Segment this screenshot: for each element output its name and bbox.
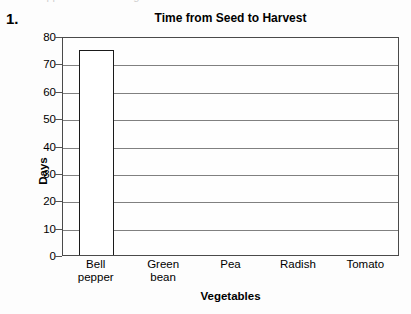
x-category-line1: Pea bbox=[220, 258, 240, 270]
y-tick-label: 60 bbox=[26, 87, 56, 97]
y-tick-mark bbox=[55, 147, 62, 148]
x-category-label: Tomato bbox=[332, 258, 399, 288]
x-category-line1: Bell bbox=[86, 258, 105, 270]
y-tick-label: 30 bbox=[26, 169, 56, 179]
y-tick-label: 20 bbox=[26, 196, 56, 206]
y-tick-label: 10 bbox=[26, 224, 56, 234]
plot-area bbox=[62, 37, 399, 256]
x-category-label: Greenbean bbox=[129, 258, 196, 288]
y-tick-mark bbox=[55, 229, 62, 230]
x-axis-title: Vegetables bbox=[62, 290, 399, 302]
x-category-line2: pepper bbox=[62, 271, 129, 284]
y-tick-mark bbox=[55, 37, 62, 38]
y-tick-mark bbox=[55, 92, 62, 93]
x-category-line1: Green bbox=[147, 258, 179, 270]
y-tick-label: 50 bbox=[26, 114, 56, 124]
x-category-line2: bean bbox=[129, 271, 196, 284]
x-category-label: Pea bbox=[197, 258, 264, 288]
x-category-line1: Radish bbox=[280, 258, 316, 270]
x-category-label: Radish bbox=[264, 258, 331, 288]
x-axis-category-labels: BellpepperGreenbeanPeaRadishTomato bbox=[62, 258, 399, 288]
bar-chart-figure: 1. Time from Seed to Harvest Days 807060… bbox=[0, 0, 411, 314]
chart-title: Time from Seed to Harvest bbox=[62, 11, 399, 25]
y-tick-label: 70 bbox=[26, 59, 56, 69]
y-tick-label: 0 bbox=[26, 251, 56, 261]
y-axis: Days 80706050403020100 bbox=[20, 37, 56, 256]
bar-bell-pepper bbox=[79, 50, 114, 255]
y-tick-mark bbox=[55, 64, 62, 65]
x-category-line1: Tomato bbox=[346, 258, 384, 270]
y-tick-label: 80 bbox=[26, 32, 56, 42]
y-tick-label: 40 bbox=[26, 142, 56, 152]
item-number: 1. bbox=[6, 10, 19, 27]
y-tick-mark bbox=[55, 256, 62, 257]
x-category-label: Bellpepper bbox=[62, 258, 129, 288]
y-tick-mark bbox=[55, 201, 62, 202]
y-tick-mark bbox=[55, 119, 62, 120]
y-tick-mark bbox=[55, 174, 62, 175]
